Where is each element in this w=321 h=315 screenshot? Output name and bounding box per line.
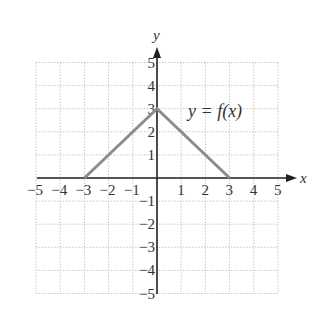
y-tick-label: −2: [139, 216, 155, 232]
x-axis-label: x: [299, 170, 307, 186]
x-tick-label: 3: [226, 182, 234, 198]
axes: [37, 47, 297, 294]
y-tick-label: 1: [148, 147, 156, 163]
y-axis-label: y: [151, 27, 160, 43]
x-tick-label: −5: [27, 182, 43, 198]
x-tick-label: −1: [124, 182, 140, 198]
x-axis-arrow-icon: [286, 174, 297, 182]
x-tick-label: −4: [51, 182, 67, 198]
function-label: y = f(x): [186, 101, 242, 122]
y-tick-label: 2: [148, 124, 156, 140]
x-tick-label: −2: [100, 182, 116, 198]
function-graph: −5−4−3−2−11234554321−1−2−3−4−5 x y y = f…: [0, 0, 321, 315]
y-tick-label: 4: [148, 78, 156, 94]
x-tick-label: 2: [201, 182, 209, 198]
y-tick-label: −3: [139, 239, 155, 255]
y-tick-label: −5: [139, 286, 155, 302]
x-tick-label: 5: [274, 182, 282, 198]
y-tick-label: 5: [148, 55, 156, 71]
y-tick-label: −4: [139, 262, 155, 278]
y-tick-label: −1: [139, 193, 155, 209]
x-tick-label: −3: [75, 182, 91, 198]
x-tick-label: 4: [250, 182, 258, 198]
x-tick-label: 1: [177, 182, 185, 198]
